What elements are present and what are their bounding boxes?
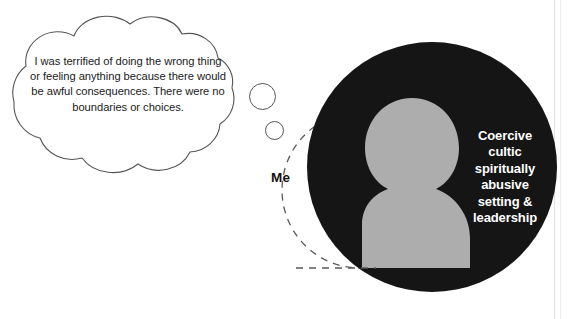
coercive-setting-label-line: abusive xyxy=(452,177,558,193)
thought-bubble-text: I was terrified of doing the wrong thing… xyxy=(30,54,226,115)
coercive-setting-label-line: setting & xyxy=(452,194,558,210)
coercive-setting-label-line: leadership xyxy=(452,210,558,226)
figure-canvas: I was terrified of doing the wrong thing… xyxy=(0,0,572,319)
coercive-setting-label-line: spiritually xyxy=(452,161,558,177)
coercive-setting-label-line: Coercive xyxy=(452,128,558,144)
thought-bubble: I was terrified of doing the wrong thing… xyxy=(4,10,248,182)
coercive-setting-label: Coercive cultic spiritually abusive sett… xyxy=(452,128,558,226)
coercive-setting-label-line: cultic xyxy=(452,144,558,160)
